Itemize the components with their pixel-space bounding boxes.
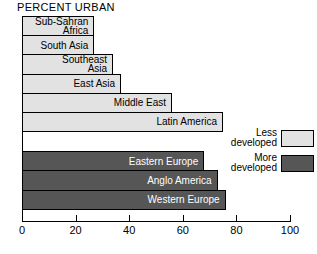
bar-anglo-america: Anglo America: [22, 170, 218, 190]
bar-label: Latin America: [156, 117, 222, 127]
bar-latin-america: Latin America: [22, 112, 223, 132]
x-tick-label-100: 100: [281, 224, 299, 236]
x-tick-20: [76, 215, 77, 222]
bar-label: Southeast Asia: [62, 55, 112, 74]
bar-label: Anglo America: [147, 176, 216, 186]
legend-swatch-less: [281, 130, 314, 147]
legend-label: Less developed: [231, 128, 281, 148]
x-tick-label-20: 20: [69, 224, 81, 236]
bar-label: South Asia: [41, 41, 94, 51]
plot-area: Sub-Sahran AfricaSouth AsiaSoutheast Asi…: [22, 16, 290, 221]
bar-western-europe: Western Europe: [22, 190, 226, 210]
chart-title: PERCENT URBAN: [17, 1, 115, 13]
x-tick-label-80: 80: [230, 224, 242, 236]
bar-eastern-europe: Eastern Europe: [22, 151, 204, 171]
x-tick-label-40: 40: [123, 224, 135, 236]
bar-label: Sub-Sahran Africa: [35, 17, 93, 36]
bar-south-asia: South Asia: [22, 35, 94, 55]
x-tick-label-0: 0: [19, 224, 25, 236]
bar-label: Western Europe: [148, 195, 225, 205]
percent-urban-bar-chart: PERCENT URBAN Sub-Sahran AfricaSouth Asi…: [0, 0, 317, 254]
bar-southeast-asia: Southeast Asia: [22, 54, 113, 74]
bar-sub-sahran-africa: Sub-Sahran Africa: [22, 16, 94, 36]
chart-legend: Less developedMore developed: [228, 128, 314, 178]
legend-swatch-more: [281, 155, 314, 172]
x-tick-0: [22, 215, 23, 222]
bar-east-asia: East Asia: [22, 74, 121, 94]
x-tick-40: [129, 215, 130, 222]
legend-item-more-developed: More developed: [228, 153, 314, 173]
legend-label: More developed: [231, 153, 281, 173]
x-tick-80: [236, 215, 237, 222]
bar-label: Eastern Europe: [129, 157, 204, 167]
x-tick-100: [290, 215, 291, 222]
legend-item-less-developed: Less developed: [228, 128, 314, 148]
bar-label: Middle East: [114, 98, 171, 108]
x-tick-label-60: 60: [177, 224, 189, 236]
y-axis-line: [22, 16, 23, 222]
bar-label: East Asia: [73, 79, 120, 89]
x-tick-60: [183, 215, 184, 222]
bar-middle-east: Middle East: [22, 93, 172, 113]
x-axis-line: [22, 221, 290, 222]
